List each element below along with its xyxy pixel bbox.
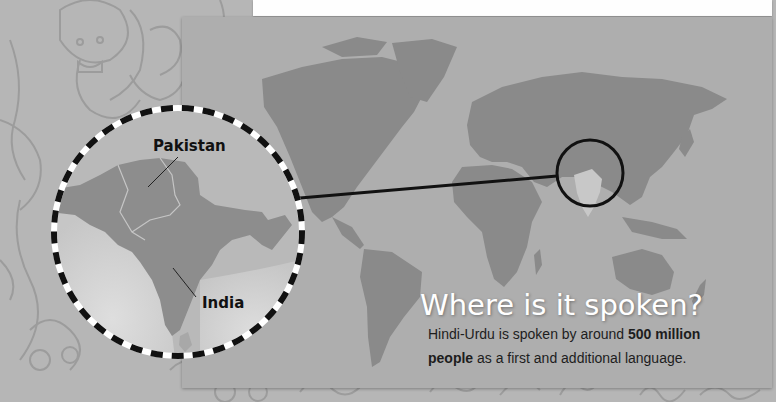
description: Hindi-Urdu is spoken by around 500 milli…: [428, 322, 748, 370]
description-text-1: Hindi-Urdu is spoken by around: [428, 326, 628, 342]
description-bold-1: 500 million: [628, 326, 700, 342]
small-highlight-circle: [557, 140, 623, 206]
section-title: Where is it spoken?: [420, 288, 703, 322]
label-india: India: [202, 294, 244, 312]
description-text-2: as a first and additional language.: [473, 350, 686, 366]
label-pakistan: Pakistan: [153, 137, 226, 155]
connector-line: [300, 176, 557, 198]
description-bold-2: people: [428, 350, 473, 366]
